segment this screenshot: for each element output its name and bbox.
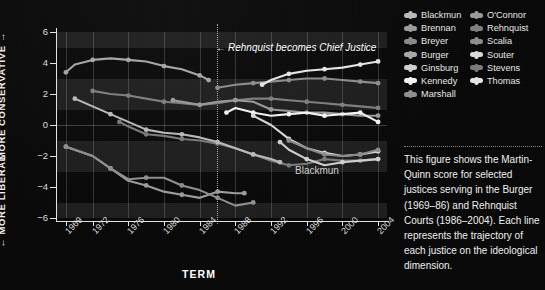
legend-item-oconnor[interactable]: O'Connor [470,10,545,20]
data-point [322,152,327,157]
data-point [171,98,176,103]
series-line [119,122,378,165]
data-point [206,78,211,83]
y-tick [50,125,56,126]
y-tick [50,63,56,64]
y-tick [50,156,56,157]
chart-figure: −6−4−20246 19691972197619801984198819921… [0,0,398,290]
legend-item-scalia[interactable]: Scalia [470,36,545,46]
legend-swatch-icon [404,78,417,83]
data-point [286,78,291,83]
legend-label: Marshall [421,89,456,99]
x-tick-label: 2004 [375,215,396,236]
legend-label: Burger [421,50,449,60]
legend-swatch-icon [470,13,483,18]
series-blackmun [72,96,282,164]
data-point [376,59,381,64]
data-point [286,138,291,143]
x-tick-label: 1992 [268,215,289,236]
data-point [322,113,327,118]
legend-swatch-icon [470,52,483,57]
legend-label: Kennedy [421,76,457,86]
legend-item-ginsburg[interactable]: Ginsburg [404,63,470,73]
legend-label: Scalia [487,36,512,46]
data-point [215,195,220,200]
x-tick-label: 1996 [304,215,325,236]
data-point [90,58,95,63]
legend-item-breyer[interactable]: Breyer [404,36,470,46]
data-point [286,163,291,168]
data-point [286,112,291,117]
data-point [72,96,77,101]
data-point [376,120,381,125]
legend-swatch-icon [470,78,483,83]
legend-item-blackmun[interactable]: Blackmun [404,10,470,20]
data-point [144,183,149,188]
legend-item-marshall[interactable]: Marshall [404,89,470,99]
legend-label: Brennan [421,23,456,33]
legend-item-kennedy[interactable]: Kennedy [404,76,470,86]
legend-item-rehnquist[interactable]: Rehnquist [470,23,545,33]
annotation-rehnquist: ←Rehnquist becomes Chief Justice [216,42,376,53]
data-point [162,64,167,69]
series-brennan [64,144,247,198]
legend-swatch-icon [404,92,417,97]
data-point [269,107,274,112]
data-point [251,152,256,157]
legend-swatch-icon [404,26,417,31]
y-tick [50,32,56,33]
series-lines [57,32,387,218]
legend-item-burger[interactable]: Burger [404,50,470,60]
series-line [75,99,280,163]
series-line [66,58,209,80]
data-point [179,183,184,188]
legend-label: Thomas [487,76,520,86]
data-point [358,62,363,67]
data-point [64,70,69,75]
x-axis-title: TERM [0,268,398,280]
data-point [215,85,220,90]
legend-item-thomas[interactable]: Thomas [470,76,545,86]
y-tick [50,94,56,95]
legend-swatch-icon [470,26,483,31]
legend-swatch-icon [404,39,417,44]
y-tick-label: 6 [26,26,48,37]
left-arrow-icon: ← [216,42,225,53]
y-tick-label: 0 [26,119,48,130]
x-tick-label: 1980 [161,215,182,236]
series-burger [64,58,212,83]
data-point [322,76,327,81]
legend-label: Stevens [487,63,520,73]
legend-label: Blackmun [421,10,461,20]
legend-item-souter[interactable]: Souter [470,50,545,60]
caption-text: This figure shows the Martin-Quinn score… [404,152,542,274]
caption-divider [404,146,542,147]
legend-swatch-icon [470,65,483,70]
data-point [251,200,256,205]
data-point [179,192,184,197]
y-tick-label: −4 [26,181,48,192]
data-point [224,110,229,115]
legend-item-brennan[interactable]: Brennan [404,23,470,33]
data-point [322,157,327,162]
legend-label: Souter [487,50,514,60]
y-tick-label: −2 [26,150,48,161]
y-tick-label: 2 [26,88,48,99]
legend-item-empty [470,89,545,99]
data-point [304,99,309,104]
data-point [278,160,283,165]
y-tick-label: 4 [26,57,48,68]
data-point [358,79,363,84]
annotation-rehnquist-text: Rehnquist becomes Chief Justice [228,42,376,53]
x-tick-label: 1988 [232,215,253,236]
series-marshall [64,144,256,205]
x-tick-label: 1984 [197,215,218,236]
data-point [197,73,202,78]
data-point [126,58,131,63]
data-point [215,189,220,194]
legend-item-stevens[interactable]: Stevens [470,63,545,73]
legend-label: Ginsburg [421,63,458,73]
data-point [197,102,202,107]
data-point [251,81,256,86]
data-point [376,157,381,162]
